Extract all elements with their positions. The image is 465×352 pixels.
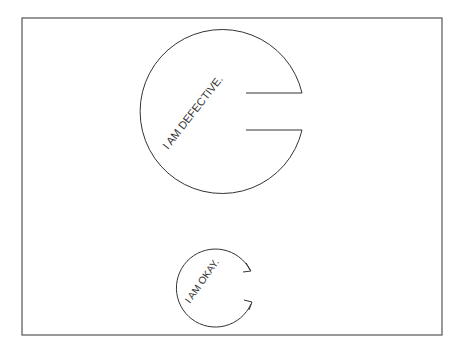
cartoon-canvas: I AM DEFECTIVE. I AM OKAY. (0, 0, 465, 352)
defective-circle: I AM DEFECTIVE. (140, 29, 302, 193)
defective-label: I AM DEFECTIVE. (160, 73, 225, 151)
arrow-head-icon (243, 263, 251, 272)
okay-label: I AM OKAY. (183, 257, 221, 305)
frame-border (22, 18, 442, 335)
arrow-tail-icon (244, 300, 252, 310)
okay-circle: I AM OKAY. (176, 249, 252, 327)
defective-circle-outline (140, 29, 302, 193)
